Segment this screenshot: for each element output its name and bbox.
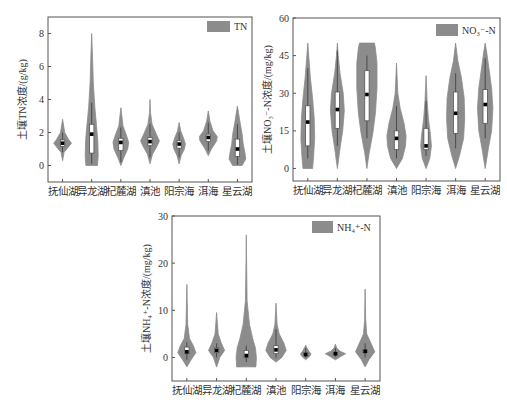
y-tick-label: 0	[39, 160, 44, 171]
x-tick-label: 滇池	[387, 184, 408, 196]
y-tick-label: 20	[158, 258, 168, 269]
x-tick-label: 星云湖	[222, 186, 252, 197]
y-tick-label: 2	[39, 127, 44, 138]
x-tick-label: 星云湖	[470, 185, 500, 196]
legend-swatch	[207, 21, 230, 32]
y-tick-label: 10	[158, 305, 168, 316]
x-tick-label: 洱海	[446, 184, 467, 196]
x-tick-label: 星云湖	[350, 385, 380, 396]
x-tick-label: 抚仙湖	[293, 184, 323, 196]
median-marker	[90, 132, 94, 136]
violin-shape	[209, 313, 225, 367]
iqr-box	[306, 106, 310, 146]
median-marker	[363, 350, 367, 354]
iqr-box	[119, 138, 123, 150]
x-tick-label: 洱海	[198, 185, 219, 197]
y-tick-label: 30	[279, 88, 289, 99]
chart-tn: 02468土壤TN浓度/(g/kg)抚仙湖异龙湖杞麓湖滇池阳宗海洱海星云湖TN	[16, 17, 252, 197]
y-tick-label: 45	[279, 50, 289, 61]
y-tick-label: 0	[284, 163, 289, 174]
x-tick-label: 异龙湖	[77, 185, 107, 197]
median-marker	[454, 111, 458, 115]
median-marker	[185, 350, 189, 354]
legend-label: NO₃⁻-N	[462, 25, 496, 36]
iqr-box	[483, 89, 487, 123]
y-tick-label: 15	[279, 125, 289, 136]
x-tick-label: 阳宗海	[411, 184, 442, 196]
median-marker	[336, 108, 340, 112]
x-tick-label: 杞麓湖	[106, 185, 136, 197]
legend-swatch	[312, 221, 333, 233]
median-marker	[61, 141, 65, 145]
median-marker	[365, 93, 369, 97]
chart-no3: 015304560土壤NO₃⁻-N浓度/(mg/kg)抚仙湖异龙湖杞麓湖滇池阳宗…	[261, 13, 500, 197]
median-marker	[236, 147, 240, 151]
median-marker	[244, 354, 248, 358]
y-axis-label: 土壤NO₃⁻-N浓度/(mg/kg)	[261, 45, 274, 154]
median-marker	[304, 353, 308, 357]
y-axis-label: 土壤TN浓度/(g/kg)	[16, 59, 29, 140]
violin-figure: 02468土壤TN浓度/(g/kg)抚仙湖异龙湖杞麓湖滇池阳宗海洱海星云湖TN0…	[0, 0, 507, 404]
legend-swatch	[436, 24, 458, 36]
x-tick-label: 阳宗海	[291, 384, 322, 396]
median-marker	[119, 141, 123, 145]
median-marker	[215, 349, 219, 353]
median-marker	[148, 140, 152, 144]
median-marker	[274, 348, 278, 352]
x-tick-label: 洱海	[325, 384, 346, 396]
median-marker	[334, 352, 338, 356]
median-marker	[395, 137, 399, 141]
legend-label: NH₄⁺-N	[337, 222, 371, 233]
x-tick-label: 杞麓湖	[231, 384, 261, 396]
chart-nh4: 0102030土壤NH₄⁺-N浓度/(mg/kg)抚仙湖异龙湖杞麓湖滇池阳宗海洱…	[140, 211, 380, 397]
y-tick-label: 8	[39, 28, 44, 39]
x-tick-label: 滇池	[266, 384, 287, 396]
iqr-box	[90, 124, 94, 153]
y-tick-label: 6	[39, 61, 44, 72]
y-tick-label: 30	[158, 211, 168, 222]
median-marker	[424, 144, 428, 148]
y-tick-label: 4	[39, 94, 44, 105]
x-tick-label: 异龙湖	[322, 184, 352, 196]
iqr-box	[394, 131, 398, 150]
y-axis-label: 土壤NH₄⁺-N浓度/(mg/kg)	[140, 244, 153, 353]
x-tick-label: 抚仙湖	[172, 384, 202, 396]
y-tick-label: 60	[279, 13, 289, 24]
y-tick-label: 0	[163, 352, 168, 363]
median-marker	[483, 103, 487, 107]
x-tick-label: 抚仙湖	[48, 185, 78, 197]
median-marker	[177, 142, 181, 146]
x-tick-label: 滇池	[140, 185, 161, 197]
median-marker	[306, 120, 310, 124]
legend-label: TN	[234, 21, 247, 32]
median-marker	[206, 136, 210, 140]
x-tick-label: 异龙湖	[202, 384, 232, 396]
x-tick-label: 杞麓湖	[352, 184, 382, 196]
x-tick-label: 阳宗海	[164, 185, 195, 197]
